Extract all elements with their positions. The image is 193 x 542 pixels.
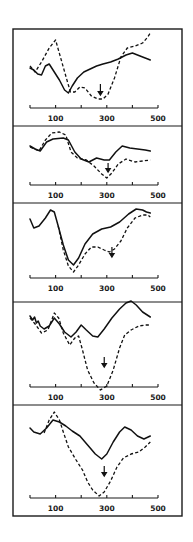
x-tick-label: 100: [48, 114, 64, 123]
x-tick-label: 100: [48, 284, 64, 293]
dashed-curve: [30, 313, 150, 390]
x-tick-label: 300: [99, 393, 115, 402]
x-tick-label: 500: [150, 504, 166, 513]
x-axis: 100300500: [30, 495, 166, 513]
x-tick-label: 100: [48, 393, 64, 402]
dashed-curve: [30, 132, 150, 178]
down-arrow-icon: [106, 163, 110, 172]
x-axis: 100300500: [30, 384, 166, 402]
panel-4: 100300500: [30, 301, 166, 402]
x-tick-label: 500: [150, 393, 166, 402]
panel-5: 100300500: [30, 412, 166, 513]
x-axis: 100300500: [30, 275, 166, 293]
down-arrow-icon: [98, 84, 102, 95]
x-tick-label: 300: [99, 284, 115, 293]
solid-curve: [30, 53, 150, 93]
x-axis: 100300500: [30, 105, 166, 123]
down-arrow-icon: [102, 466, 106, 476]
x-tick-label: 100: [48, 504, 64, 513]
outer-frame: [13, 29, 182, 516]
solid-curve: [30, 138, 150, 162]
dashed-curve: [44, 412, 150, 496]
solid-curve: [30, 301, 150, 337]
x-axis: 100300500: [30, 182, 166, 200]
panel-1: 100300500: [30, 33, 166, 123]
x-tick-label: 500: [150, 114, 166, 123]
figure-frame: [13, 29, 182, 516]
panel-2: 100300500: [30, 132, 166, 200]
panel-3: 100300500: [30, 209, 166, 293]
figure-canvas: 1003005001003005001003005001003005001003…: [0, 0, 193, 542]
x-tick-label: 300: [99, 504, 115, 513]
x-tick-label: 100: [48, 191, 64, 200]
x-tick-label: 300: [99, 114, 115, 123]
dashed-curve: [30, 33, 150, 99]
down-arrow-icon: [102, 357, 106, 367]
panels: 1003005001003005001003005001003005001003…: [30, 33, 166, 513]
solid-curve: [30, 209, 150, 265]
x-tick-label: 500: [150, 284, 166, 293]
x-tick-label: 300: [99, 191, 115, 200]
x-tick-label: 500: [150, 191, 166, 200]
